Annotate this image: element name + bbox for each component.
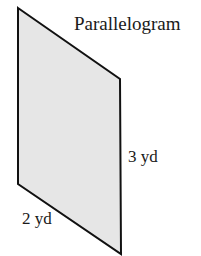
slanted-side-label: 2 yd xyxy=(22,209,52,229)
vertical-side-label: 3 yd xyxy=(128,147,158,167)
shape-title: Parallelogram xyxy=(74,13,181,35)
